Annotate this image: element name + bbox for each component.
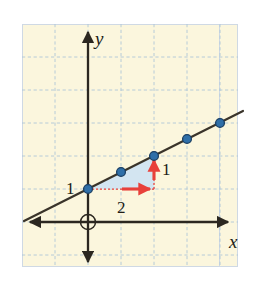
data-point (216, 119, 225, 128)
run-label: 2 (117, 199, 126, 216)
rise-label: 1 (162, 161, 171, 178)
x-axis-label: x (229, 232, 237, 251)
graph-canvas (0, 0, 255, 285)
data-point (84, 185, 93, 194)
plotted-line (24, 111, 243, 221)
y-intercept-label: 1 (66, 180, 75, 197)
grid-horizontal-lines (22, 57, 238, 255)
data-point (183, 135, 192, 144)
data-point (150, 152, 159, 161)
graph-figure: y x 1 2 1 (0, 0, 255, 285)
grid-vertical-lines (55, 24, 220, 267)
y-axis-label: y (95, 29, 103, 48)
data-point (117, 168, 126, 177)
